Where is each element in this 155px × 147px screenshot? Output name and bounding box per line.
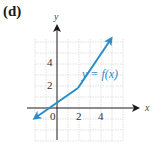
x-axis-label: x [144,102,150,113]
x-tick-2: 2 [76,110,82,122]
y-tick-2: 2 [47,79,53,91]
function-graph: x y 0 2 4 2 4 y = f(x) [0,0,155,147]
x-tick-0: 0 [50,110,56,122]
function-label: y = f(x) [81,67,118,81]
y-tick-4: 4 [47,56,53,68]
y-axis-label: y [53,11,59,22]
x-tick-4: 4 [98,110,104,122]
